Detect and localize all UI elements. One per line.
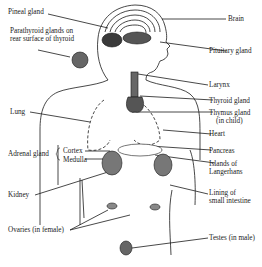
label-thymus-line1: Thymus gland (209, 109, 250, 117)
label-lining-line1: Lining of (209, 189, 236, 197)
label-larynx: Larynx (209, 81, 230, 89)
larynx-organ (131, 72, 138, 97)
pancreas-organ (118, 144, 162, 156)
parathyroid-organ (72, 52, 88, 68)
label-lung: Lung (10, 108, 25, 116)
kidney-right (154, 154, 172, 176)
label-pancreas: Pancreas (209, 147, 235, 155)
label-parathyroid-line1: Parathyroid glands on (10, 27, 73, 35)
lungs (88, 100, 110, 150)
label-pituitary-gland: Pituitary gland (209, 47, 252, 55)
label-islands-line1: Islands of (209, 160, 237, 168)
thyroid-organ (126, 97, 143, 112)
label-islands-line2: Langerhans (209, 168, 243, 176)
label-parathyroid-line2: rear surface of thyroid (10, 35, 74, 43)
label-cortex: Cortex (63, 147, 83, 155)
endocrine-diagram: Pineal gland Parathyroid glands on rear … (0, 0, 262, 267)
label-thymus-line2: (in child) (216, 117, 243, 125)
pituitary-organ (123, 32, 151, 44)
label-pineal-gland: Pineal gland (8, 8, 44, 16)
label-lining-line2: small intestine (209, 197, 251, 205)
testes-organ (120, 241, 132, 255)
label-kidney: Kidney (8, 191, 29, 199)
label-thyroid-gland: Thyroid gland (209, 97, 250, 105)
label-medulla: Medulla (63, 156, 87, 164)
label-heart: Heart (209, 130, 225, 138)
label-adrenal-gland: Adrenal gland (8, 150, 49, 158)
ovary-right (150, 204, 160, 210)
label-ovaries: Ovaries (in female) (8, 226, 64, 234)
label-testes: Testes (in male) (209, 234, 255, 242)
label-brain: Brain (228, 15, 244, 23)
brain (105, 10, 160, 32)
kidney-left (102, 151, 122, 175)
ovary-left (107, 203, 117, 209)
